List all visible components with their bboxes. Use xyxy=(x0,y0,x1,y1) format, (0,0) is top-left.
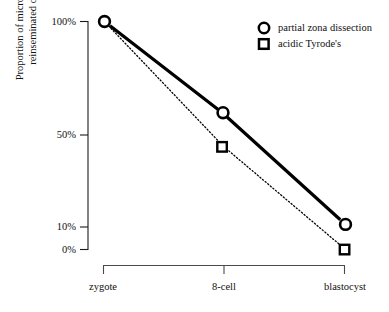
data-point-pzd-blastocyst xyxy=(340,219,351,230)
data-point-acidic-8cell xyxy=(217,142,227,152)
y-axis-label-text: Proportion of microsurgically reinsemina… xyxy=(14,0,39,88)
legend-square-icon xyxy=(259,39,269,49)
series-line-acidic-tyrodes xyxy=(109,26,341,246)
y-axis-label: Proportion of microsurgically reinsemina… xyxy=(14,0,40,88)
y-tick-label-0: 0% xyxy=(26,244,76,255)
data-point-pzd-zygote xyxy=(99,16,110,27)
legend-label-acidic-tyrodes: acidic Tyrode's xyxy=(278,38,341,50)
y-tick-label-10: 10% xyxy=(26,221,76,232)
series-line-partial-zona-dissection xyxy=(110,26,340,220)
y-tick-label-50: 50% xyxy=(26,129,76,140)
chart-figure: 100% 50% 10% 0% Proportion of microsurgi… xyxy=(0,0,389,312)
legend-circle-icon xyxy=(259,23,269,33)
data-point-pzd-8cell xyxy=(218,107,229,118)
x-category-label-8cell: 8-cell xyxy=(184,281,264,292)
x-category-label-blastocyst: blastocyst xyxy=(305,281,385,292)
data-point-acidic-blastocyst xyxy=(340,245,350,255)
x-category-label-zygote: zygote xyxy=(63,281,143,292)
legend-label-partial-zona-dissection: partial zona dissection xyxy=(278,22,372,34)
